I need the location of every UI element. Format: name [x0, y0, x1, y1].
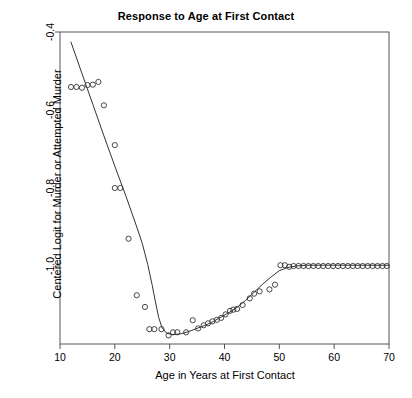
data-point	[90, 82, 95, 87]
fit-curve	[71, 42, 389, 335]
data-point	[340, 263, 345, 268]
data-point	[126, 236, 131, 241]
data-point	[142, 304, 147, 309]
data-point	[311, 263, 316, 268]
data-point	[365, 263, 370, 268]
scatter-points	[68, 79, 389, 338]
data-point	[101, 103, 106, 108]
x-tick-label: 50	[273, 351, 285, 363]
data-point	[370, 263, 375, 268]
x-tick-label: 20	[109, 351, 121, 363]
data-point	[134, 293, 139, 298]
x-tick-label: 40	[219, 351, 231, 363]
data-point	[316, 263, 321, 268]
data-point	[345, 263, 350, 268]
data-point	[190, 318, 195, 323]
data-point	[112, 185, 117, 190]
smooth-fit-line	[71, 42, 389, 335]
data-point	[96, 79, 101, 84]
x-tick-label: 70	[383, 351, 395, 363]
data-point	[360, 263, 365, 268]
data-point	[74, 84, 79, 89]
data-point	[152, 327, 157, 332]
data-point	[306, 263, 311, 268]
data-point	[272, 282, 277, 287]
data-point	[350, 263, 355, 268]
data-point	[147, 327, 152, 332]
x-tick-label: 60	[328, 351, 340, 363]
x-axis-ticks: 10203040506070	[54, 344, 395, 363]
data-point	[267, 287, 272, 292]
data-point	[257, 289, 262, 294]
data-point	[118, 185, 123, 190]
data-point	[79, 85, 84, 90]
data-point	[321, 263, 326, 268]
x-tick-label: 10	[54, 351, 66, 363]
chart-container: Response to Age at First Contact 1020304…	[0, 0, 412, 398]
data-point	[326, 263, 331, 268]
data-point	[68, 84, 73, 89]
data-point	[375, 263, 380, 268]
data-point	[330, 263, 335, 268]
data-point	[112, 143, 117, 148]
data-point	[335, 263, 340, 268]
x-axis-label: Age in Years at First Contact	[60, 369, 390, 381]
x-tick-label: 30	[164, 351, 176, 363]
axis-box	[60, 32, 389, 344]
data-point	[355, 263, 360, 268]
y-axis-label: Centered Logit for Murder or Attempted M…	[51, 19, 63, 349]
